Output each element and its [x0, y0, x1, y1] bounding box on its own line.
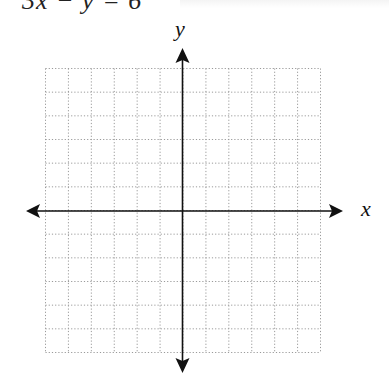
- y-axis-label: y: [175, 16, 185, 42]
- x-axis-label: x: [361, 196, 371, 222]
- coordinate-grid: [0, 0, 389, 385]
- x-axis: [26, 204, 343, 218]
